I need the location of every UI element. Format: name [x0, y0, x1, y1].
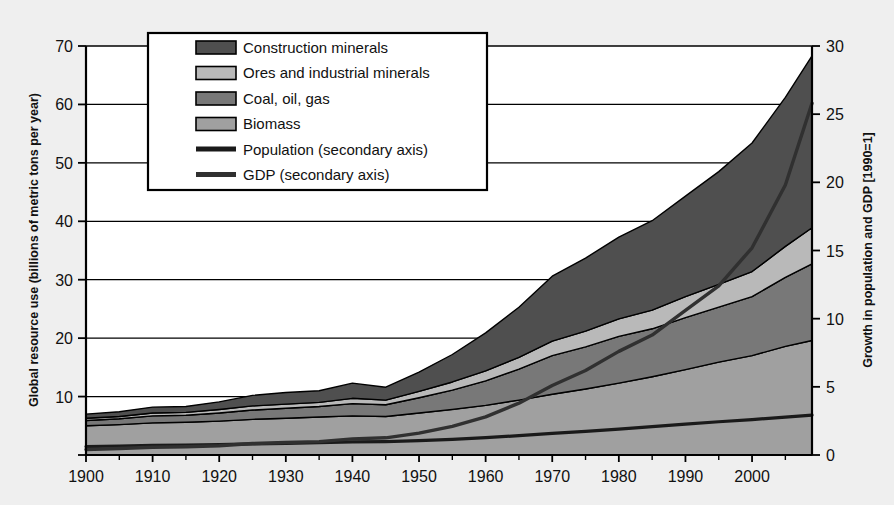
x-tick-label: 1950 [401, 468, 437, 485]
y2-tick-label: 10 [826, 311, 844, 328]
resource-use-stacked-area-chart: 1900191019201930194019501960197019801990… [0, 0, 894, 505]
y-tick-label: 60 [55, 96, 73, 113]
y2-tick-label: 15 [826, 243, 844, 260]
legend-swatch-biomass [196, 118, 236, 131]
x-tick-label: 1970 [534, 468, 570, 485]
y-tick-label: 30 [55, 272, 73, 289]
y2-tick-label: 5 [826, 379, 835, 396]
chart-figure: 1900191019201930194019501960197019801990… [0, 0, 894, 505]
x-tick-label: 2000 [734, 468, 770, 485]
chart-legend: Construction mineralsOres and industrial… [148, 33, 487, 190]
legend-swatch-ores-and-industrial-minerals [196, 67, 236, 80]
y2-tick-label: 0 [826, 447, 835, 464]
legend-label-coal-oil-gas: Coal, oil, gas [243, 90, 330, 107]
x-tick-label: 1900 [68, 468, 104, 485]
y-tick-label: 40 [55, 213, 73, 230]
x-tick-label: 1920 [201, 468, 237, 485]
y2-tick-label: 25 [826, 106, 844, 123]
y-tick-label: 70 [55, 38, 73, 55]
y2-tick-label: 30 [826, 38, 844, 55]
x-tick-label: 1940 [335, 468, 371, 485]
y-tick-label: 50 [55, 155, 73, 172]
legend-label-gdp-secondary-axis: GDP (secondary axis) [243, 166, 389, 183]
y2-tick-label: 20 [826, 174, 844, 191]
legend-label-biomass: Biomass [243, 115, 301, 132]
x-tick-label: 1910 [135, 468, 171, 485]
y-tick-label: 20 [55, 330, 73, 347]
x-tick-label: 1990 [668, 468, 704, 485]
y-axis-title: Global resource use (billions of metric … [27, 93, 41, 407]
y2-axis-title: Growth in population and GDP [1990=1] [861, 132, 875, 368]
x-tick-label: 1980 [601, 468, 637, 485]
x-tick-label: 1930 [268, 468, 304, 485]
legend-label-ores-and-industrial-minerals: Ores and industrial minerals [243, 64, 430, 81]
x-tick-label: 1960 [468, 468, 504, 485]
legend-label-construction-minerals: Construction minerals [243, 39, 388, 56]
y-tick-label: 10 [55, 389, 73, 406]
legend-swatch-construction-minerals [196, 41, 236, 54]
legend-swatch-coal-oil-gas [196, 92, 236, 105]
legend-label-population-secondary-axis: Population (secondary axis) [243, 141, 428, 158]
